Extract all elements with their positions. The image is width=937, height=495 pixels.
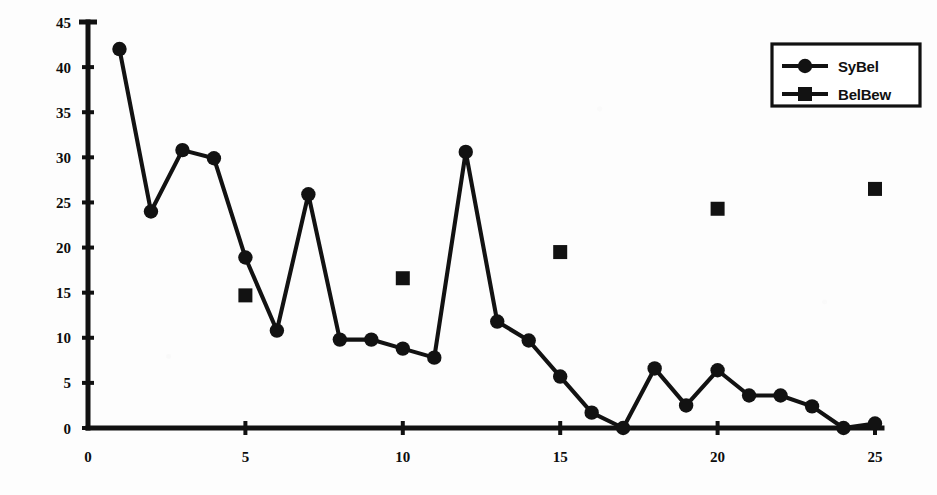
data-point-sybel[interactable] <box>490 314 504 328</box>
data-point-sybel[interactable] <box>805 399 819 413</box>
y-axis-tick-label: 30 <box>56 150 71 166</box>
data-point-sybel[interactable] <box>616 421 630 435</box>
series-lines <box>119 49 875 428</box>
data-point-sybel[interactable] <box>836 421 850 435</box>
data-point-sybel[interactable] <box>175 143 189 157</box>
legend-marker-square-icon <box>798 87 812 101</box>
y-axis-tick-label: 10 <box>56 330 71 346</box>
chart-plot-area: 051015202530354045 0510152025 SyBelBelBe… <box>0 0 937 495</box>
data-point-sybel[interactable] <box>238 250 252 264</box>
y-axis-tick-label: 5 <box>64 375 72 391</box>
y-axis-tick-label: 0 <box>64 421 72 437</box>
data-point-sybel[interactable] <box>679 398 693 412</box>
data-point-sybel[interactable] <box>522 333 536 347</box>
x-axis-tick-label: 20 <box>710 449 725 465</box>
data-point-sybel[interactable] <box>270 323 284 337</box>
data-point-sybel[interactable] <box>333 332 347 346</box>
data-point-sybel[interactable] <box>773 388 787 402</box>
legend-marker-circle-icon <box>798 59 812 73</box>
data-point-sybel[interactable] <box>301 187 315 201</box>
x-axis-tick-label: 25 <box>868 449 883 465</box>
data-point-sybel[interactable] <box>396 341 410 355</box>
data-point-sybel[interactable] <box>459 145 473 159</box>
series-line-sybel <box>119 49 875 428</box>
x-axis-tick-label: 0 <box>84 449 92 465</box>
y-axis-tick-label: 40 <box>56 60 71 76</box>
y-axis-tick-label: 45 <box>56 15 71 31</box>
data-point-sybel[interactable] <box>710 363 724 377</box>
y-axis-tick-label: 25 <box>56 195 71 211</box>
data-point-sybel[interactable] <box>647 361 661 375</box>
x-axis-tick-label: 10 <box>395 449 410 465</box>
data-point-belbew[interactable] <box>553 245 567 259</box>
data-point-sybel[interactable] <box>427 350 441 364</box>
data-point-sybel[interactable] <box>868 416 882 430</box>
data-point-sybel[interactable] <box>364 332 378 346</box>
x-axis-tick-labels: 0510152025 <box>84 449 882 465</box>
data-point-sybel[interactable] <box>144 204 158 218</box>
data-point-sybel[interactable] <box>553 369 567 383</box>
data-point-sybel[interactable] <box>112 42 126 56</box>
data-point-belbew[interactable] <box>238 288 252 302</box>
y-axis-tick-label: 35 <box>56 105 71 121</box>
legend-label-belbew: BelBew <box>838 86 892 103</box>
data-point-sybel[interactable] <box>207 151 221 165</box>
chart-legend[interactable]: SyBelBelBew <box>772 44 920 106</box>
y-axis-tick-label: 15 <box>56 285 71 301</box>
chart-container: 051015202530354045 0510152025 SyBelBelBe… <box>0 0 937 495</box>
series-markers <box>112 42 882 435</box>
data-point-belbew[interactable] <box>711 202 725 216</box>
data-point-belbew[interactable] <box>396 271 410 285</box>
x-axis-tick-label: 15 <box>553 449 568 465</box>
y-axis-tick-label: 20 <box>56 240 71 256</box>
legend-label-sybel: SyBel <box>838 58 879 75</box>
data-point-belbew[interactable] <box>868 182 882 196</box>
y-axis-tick-labels: 051015202530354045 <box>56 15 71 437</box>
data-point-sybel[interactable] <box>584 405 598 419</box>
x-axis-tick-label: 5 <box>242 449 250 465</box>
data-point-sybel[interactable] <box>742 388 756 402</box>
